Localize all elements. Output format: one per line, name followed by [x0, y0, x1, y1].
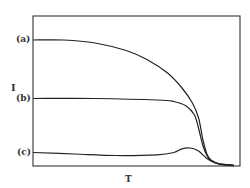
x-axis-label: T: [125, 174, 132, 184]
plot-frame: [33, 16, 240, 166]
series-layer: [33, 40, 234, 166]
chart-canvas: [0, 0, 250, 188]
series-label-c: (c): [17, 147, 31, 157]
series-label-b: (b): [16, 93, 31, 103]
series-label-a: (a): [16, 34, 30, 44]
y-axis-label: I: [11, 82, 16, 93]
series-curve-c: [33, 148, 234, 166]
